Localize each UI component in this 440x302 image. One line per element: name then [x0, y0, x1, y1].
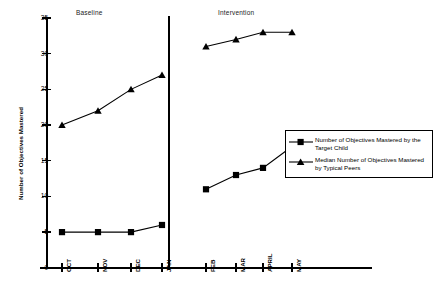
series-line-segment: [62, 75, 162, 125]
chart-figure: Baseline Intervention Number of Objectiv…: [0, 0, 440, 302]
data-point-triangle: [94, 107, 101, 114]
legend-marker-triangle-icon: [288, 157, 314, 167]
series-line-segment: [62, 225, 162, 232]
data-point-triangle: [158, 71, 165, 78]
data-point-square: [159, 222, 165, 228]
data-point-triangle: [127, 86, 134, 93]
legend-marker-square-icon: [288, 137, 314, 147]
series-typical-peers: [58, 29, 295, 128]
legend-label-target-child: Number of Objectives Mastered by the Tar…: [314, 136, 421, 153]
data-point-square: [95, 229, 101, 235]
data-point-triangle: [58, 121, 65, 128]
series-target-child: [59, 143, 295, 235]
data-point-square: [260, 165, 266, 171]
data-point-square: [128, 229, 134, 235]
series-line-segment: [206, 32, 292, 46]
data-point-square: [59, 229, 65, 235]
legend-label-typical-peers-line1: Median Number of Objectives Mastered: [315, 156, 424, 163]
legend-item-target-child: Number of Objectives Mastered by the Tar…: [288, 136, 429, 153]
data-point-square: [203, 186, 209, 192]
legend-item-typical-peers: Median Number of Objectives Mastered by …: [288, 156, 429, 173]
legend-label-typical-peers-line2: by Typical Peers: [315, 164, 360, 171]
legend-label-typical-peers: Median Number of Objectives Mastered by …: [314, 156, 424, 173]
data-point-square: [233, 172, 239, 178]
series-line-segment: [206, 146, 292, 189]
legend-label-target-child-line2: Target Child: [315, 144, 348, 151]
chart-legend: Number of Objectives Mastered by the Tar…: [285, 130, 433, 178]
legend-label-target-child-line1: Number of Objectives Mastered by the: [315, 136, 421, 143]
